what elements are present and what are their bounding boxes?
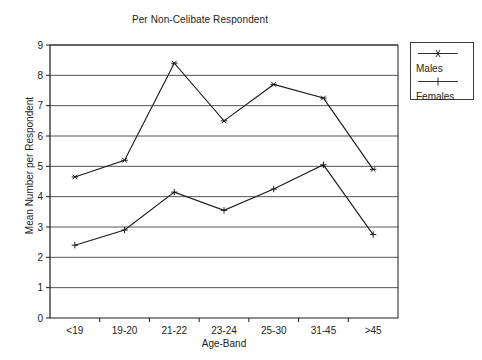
data-point-males [320,96,326,101]
data-point-males [121,158,127,163]
y-tick-label: 9 [37,40,43,51]
data-point-males [171,61,177,66]
y-tick-label: 6 [37,131,43,142]
y-tick-label: 7 [37,100,43,111]
x-tick-label: 25-30 [261,325,287,336]
y-tick-label: 3 [37,222,43,233]
gridlines [50,45,398,288]
legend-item-females: Females [411,73,473,103]
data-point-females [221,207,227,213]
y-tick-label: 1 [37,282,43,293]
data-series-group [72,61,377,249]
series-line-males [75,63,373,177]
x-tick-label: 31-45 [311,325,337,336]
data-point-males [72,175,78,180]
axis-frame [50,45,398,318]
plus-icon [416,76,460,87]
chart-legend: Males Females [410,42,474,100]
y-tick-label: 4 [37,191,43,202]
chart-container: Per Non-Celibate Respondent Mean Number … [0,0,482,360]
x-axis-ticks: <1919-2021-2223-2425-3031-45>45 [66,318,382,336]
x-tick-label: 21-22 [161,325,187,336]
y-tick-label: 2 [37,252,43,263]
x-tick-label: >45 [365,325,382,336]
y-tick-label: 5 [37,161,43,172]
data-point-females [72,242,78,248]
legend-item-males: Males [411,45,473,75]
y-tick-label: 8 [37,70,43,81]
data-point-males [221,119,227,124]
asterisk-icon [416,48,460,59]
legend-label-females: Females [416,91,473,103]
x-tick-label: 23-24 [211,325,237,336]
data-point-females [271,186,277,192]
series-line-females [75,165,373,245]
x-tick-label: <19 [66,325,83,336]
y-tick-label: 0 [37,313,43,324]
data-point-males [370,167,376,172]
data-point-males [271,82,277,87]
y-axis-ticks: 0123456789 [37,40,50,324]
x-tick-label: 19-20 [112,325,138,336]
